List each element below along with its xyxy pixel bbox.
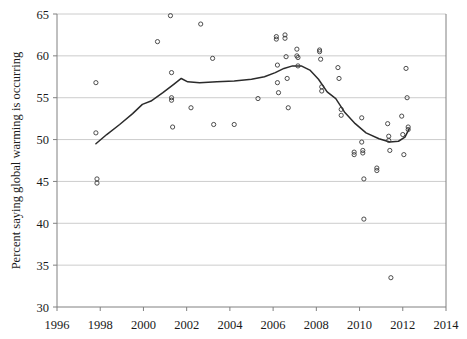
data-point — [362, 217, 366, 221]
data-point — [256, 96, 260, 100]
data-point — [360, 116, 364, 120]
data-point — [211, 56, 215, 60]
x-tick-label-2000: 2000 — [131, 318, 156, 332]
data-point — [389, 276, 393, 280]
x-axis-tick-labels: 1996199820002002200420062008201020122014 — [45, 318, 460, 332]
x-tick-label-2008: 2008 — [304, 318, 329, 332]
y-tick-label-65: 65 — [37, 8, 50, 22]
y-tick-label-50: 50 — [37, 133, 50, 147]
data-point — [388, 148, 392, 152]
y-tick-label-45: 45 — [37, 175, 50, 189]
plot-frame — [57, 14, 446, 307]
data-point — [276, 91, 280, 95]
x-tick-label-1998: 1998 — [88, 318, 113, 332]
data-point — [95, 177, 99, 181]
x-tick-label-2012: 2012 — [390, 318, 415, 332]
data-point — [400, 114, 404, 118]
axes-group — [53, 14, 446, 311]
data-point — [295, 47, 299, 51]
data-point — [199, 22, 203, 26]
data-point — [275, 81, 279, 85]
y-axis-title: Percent saying global warming is occurri… — [9, 51, 23, 269]
data-point — [320, 89, 324, 93]
data-point — [339, 113, 343, 117]
data-point — [387, 134, 391, 138]
trend-line-group — [96, 66, 409, 144]
y-tick-label-30: 30 — [37, 301, 50, 315]
y-tick-label-40: 40 — [37, 217, 50, 231]
data-point — [319, 57, 323, 61]
data-point — [212, 122, 216, 126]
x-tick-label-2002: 2002 — [174, 318, 199, 332]
data-point — [155, 40, 159, 44]
x-tick-label-2010: 2010 — [347, 318, 372, 332]
y-tick-label-55: 55 — [37, 91, 50, 105]
data-point — [285, 76, 289, 80]
data-point — [94, 131, 98, 135]
x-tick-label-2004: 2004 — [217, 318, 243, 332]
data-point — [404, 66, 408, 70]
data-points-group — [94, 14, 410, 280]
data-point — [386, 122, 390, 126]
data-point — [336, 65, 340, 69]
trend-line — [96, 66, 409, 144]
x-tick-label-2006: 2006 — [261, 318, 286, 332]
y-tick-label-35: 35 — [37, 259, 50, 273]
data-point — [275, 63, 279, 67]
data-point — [360, 140, 364, 144]
data-point — [171, 125, 175, 129]
data-point — [401, 132, 405, 136]
chart-figure: 3035404550556065 19961998200020022004200… — [0, 0, 467, 339]
data-point — [189, 106, 193, 110]
x-tick-label-2014: 2014 — [434, 318, 460, 332]
data-point — [232, 122, 236, 126]
data-point — [284, 55, 288, 59]
y-tick-label-60: 60 — [37, 49, 50, 63]
x-tick-label-1996: 1996 — [45, 318, 70, 332]
y-axis-title-group: Percent saying global warming is occurri… — [9, 51, 23, 269]
data-point — [94, 81, 98, 85]
gridlines-group — [57, 14, 446, 265]
data-point — [286, 106, 290, 110]
data-point — [169, 71, 173, 75]
y-axis-tick-labels: 3035404550556065 — [37, 8, 50, 315]
scatter-chart: 3035404550556065 19961998200020022004200… — [0, 0, 467, 339]
data-point — [337, 76, 341, 80]
data-point — [362, 177, 366, 181]
data-point — [402, 153, 406, 157]
